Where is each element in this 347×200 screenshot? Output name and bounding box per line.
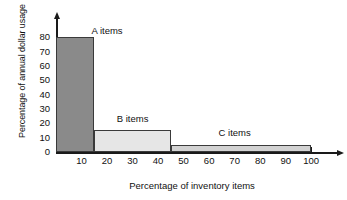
y-axis-tick-label: 0 [45,147,50,157]
y-axis-tick-label: 40 [39,90,50,100]
x-axis-tick-label: 90 [280,156,291,166]
x-axis-tick-label: 40 [153,156,164,166]
x-axis-tick-label: 20 [102,156,113,166]
y-axis-title: Percentage of annual dollar usage [17,0,27,151]
y-axis-arrow-icon [54,12,60,19]
x-axis-tick-label: 30 [127,156,138,166]
y-axis-tick-label: 60 [39,61,50,71]
bar-b-items [94,130,171,152]
y-axis-tick-label: 20 [39,119,50,129]
x-axis-tick-label: 60 [204,156,215,166]
x-axis-tick-label: 100 [303,156,319,166]
x-axis-title: Percentage of inventory items [56,180,328,191]
x-axis-arrow-icon [337,150,344,156]
x-axis-tick-label: 80 [255,156,266,166]
y-axis-tick-label: 50 [39,75,50,85]
abc-inventory-bar-chart: Percentage of annual dollar usage 010203… [0,0,347,200]
bar-c-items [171,145,311,152]
segment-label-b: B items [117,114,149,124]
y-axis-tick-label: 70 [39,47,50,57]
plot-area: 01020304050607080 102030405060708090100 … [56,24,324,153]
x-axis-tick-label: 50 [178,156,189,166]
x-axis-tick-label: 10 [76,156,87,166]
segment-label-c: C items [219,128,251,138]
y-axis-tick-label: 10 [39,133,50,143]
y-axis-tick-label: 80 [39,32,50,42]
y-axis-tick-label: 30 [39,104,50,114]
x-axis-line [56,152,338,154]
bar-a-items [56,37,94,152]
x-axis-tick-label: 70 [229,156,240,166]
segment-label-a: A items [91,26,122,36]
